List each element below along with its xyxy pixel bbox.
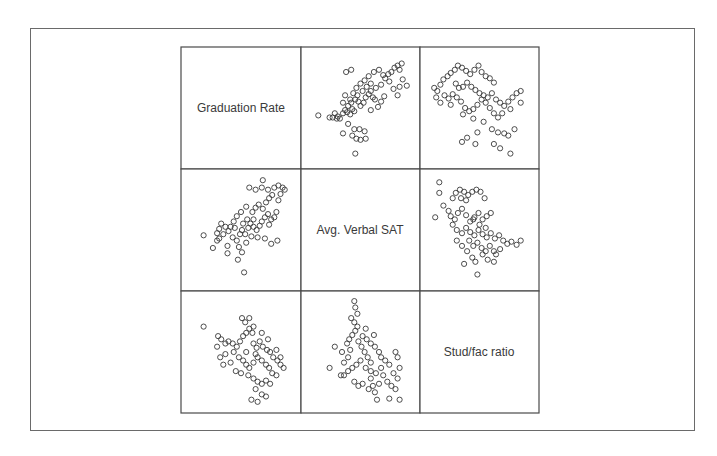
diagonal-label-avg-verbal-sat: Avg. Verbal SAT <box>317 223 404 237</box>
matrix-cell-0-1 <box>301 47 420 169</box>
diagonal-label-stud-fac-ratio: Stud/fac ratio <box>444 345 515 359</box>
diagonal-label-graduation-rate: Graduation Rate <box>197 101 285 115</box>
matrix-cell-0-2 <box>420 47 539 169</box>
matrix-cell-2-0 <box>181 291 301 413</box>
matrix-cell-2-1 <box>301 291 420 413</box>
scatterplot-matrix: Graduation Rate Avg. Verbal SAT Stud/fac… <box>181 47 539 413</box>
